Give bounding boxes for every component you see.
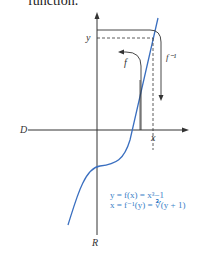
forward-arrowhead [118, 50, 124, 55]
equation-forward: y = f(x) = x³−1 [110, 190, 185, 200]
x-label: x [150, 132, 156, 143]
range-axis-arrowhead [95, 12, 100, 19]
domain-label: D [19, 124, 28, 135]
equations: y = f(x) = x³−1 x = f⁻¹(y) = ∛(y + 1) [110, 190, 185, 210]
forward-label: f [124, 57, 128, 68]
inverse-label: f⁻¹ [166, 52, 177, 62]
range-label: R [91, 237, 98, 248]
equation-inverse: x = f⁻¹(y) = ∛(y + 1) [110, 200, 185, 210]
inverse-arrowhead [159, 95, 164, 101]
inverse-function-diagram: D R y x f f⁻¹ [0, 0, 204, 253]
domain-axis-arrowhead [182, 128, 189, 133]
inverse-arrow [97, 30, 161, 97]
y-label: y [85, 32, 91, 43]
